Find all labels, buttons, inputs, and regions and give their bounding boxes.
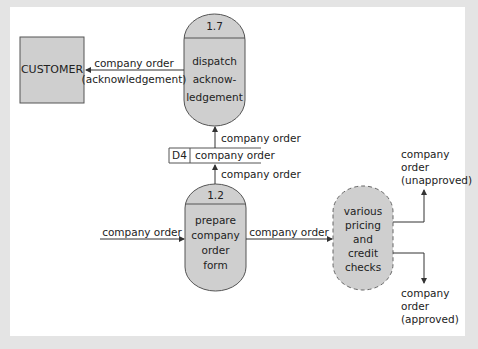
data-store-name: company order — [195, 148, 275, 163]
process-1-7-label: dispatch acknow- ledgement — [184, 52, 245, 106]
flow-label-line: (unapproved) — [401, 174, 472, 187]
process-1-2-id: 1.2 — [185, 188, 246, 202]
pricing-checks-line: checks — [333, 260, 393, 274]
process-1-2-label: prepare company order form — [185, 213, 246, 273]
pricing-checks-label: various pricing and credit checks — [333, 204, 393, 274]
process-1-2-line: order — [185, 243, 246, 258]
flow-label-line: company — [401, 287, 459, 300]
flow-label-line: company order — [82, 55, 187, 71]
process-1-2-line: prepare — [185, 213, 246, 228]
process-1-2-line: form — [185, 258, 246, 273]
data-store-id: D4 — [169, 148, 190, 163]
flow-input-label: company order — [102, 224, 182, 240]
flow-approved — [393, 253, 424, 283]
flow-label-line: company — [401, 148, 472, 161]
flow-1-2-to-store-label: company order — [221, 166, 301, 182]
flow-label-line: order — [401, 161, 472, 174]
pricing-checks-line: pricing — [333, 218, 393, 232]
process-1-2-line: company — [185, 228, 246, 243]
flow-label-line: (acknowledgement) — [82, 71, 187, 87]
flow-1-2-to-checks-label: company order — [249, 224, 329, 240]
pricing-checks-line: and — [333, 232, 393, 246]
process-1-7-line: acknow- — [184, 70, 245, 88]
pricing-checks-line: various — [333, 204, 393, 218]
flow-label-line: order — [401, 300, 459, 313]
flow-unapproved — [393, 190, 424, 222]
flow-to-customer-label: company order (acknowledgement) — [82, 55, 187, 87]
process-1-7-line: ledgement — [184, 88, 245, 106]
customer-label: CUSTOMER — [20, 63, 84, 76]
process-1-7-line: dispatch — [184, 52, 245, 70]
process-1-7-id: 1.7 — [184, 19, 245, 33]
flow-store-to-1-7-label: company order — [221, 130, 301, 146]
flow-unapproved-label: company order (unapproved) — [401, 148, 472, 187]
flow-label-line: (approved) — [401, 313, 459, 326]
flow-approved-label: company order (approved) — [401, 287, 459, 326]
pricing-checks-line: credit — [333, 246, 393, 260]
